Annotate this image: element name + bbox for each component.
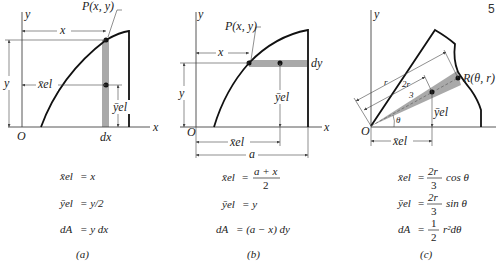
x-dim-label: x	[59, 23, 66, 37]
boundary-curve	[214, 30, 308, 127]
origin-label: O	[17, 129, 26, 143]
svg-text:sin θ: sin θ	[446, 197, 468, 209]
svg-text:dA: dA	[398, 223, 411, 235]
svg-text:y: y	[373, 7, 380, 21]
svg-text:R(θ, r): R(θ, r)	[462, 71, 495, 85]
svg-text:x: x	[323, 120, 330, 134]
panel-c: r 2r 3 θ ȳel x̄el R(θ, r) y O	[354, 7, 496, 148]
panel-b-equations: x̄el = a + x 2 ȳel = y dA = (a − x) dy (…	[216, 165, 290, 261]
svg-text:= y dx: = y dx	[80, 223, 108, 235]
svg-text:x̄el: x̄el	[397, 171, 411, 183]
svg-text:a + x: a + x	[254, 165, 277, 177]
yel-label: ȳel	[112, 100, 128, 114]
y-axis-label: y	[24, 7, 31, 21]
svg-text:θ: θ	[396, 115, 401, 125]
svg-text:= y: = y	[242, 198, 257, 210]
svg-text:3: 3	[431, 205, 437, 217]
caption-a: (a)	[76, 248, 89, 261]
svg-text:2: 2	[431, 231, 437, 243]
svg-text:=: =	[418, 223, 424, 235]
svg-text:O: O	[187, 125, 196, 139]
svg-text:x̄el: x̄el	[229, 135, 245, 149]
svg-text:x: x	[217, 45, 224, 59]
svg-text:=: =	[242, 171, 248, 183]
svg-text:2: 2	[263, 179, 269, 191]
centroid-diagram: 5 x y x̄el ȳel P(x, y) y x	[0, 0, 498, 265]
svg-text:= (a − x) dy: = (a − x) dy	[236, 223, 290, 236]
svg-text:x̄el: x̄el	[392, 134, 408, 148]
svg-text:P(x, y): P(x, y)	[224, 19, 257, 33]
svg-text:y: y	[197, 7, 204, 21]
svg-text:=: =	[418, 171, 424, 183]
svg-text:2r: 2r	[428, 191, 439, 203]
panel-b: x y ȳel x̄el a P(x, y) y x O dy	[178, 7, 330, 161]
svg-text:dy: dy	[311, 56, 323, 70]
svg-text:2r: 2r	[402, 79, 411, 89]
svg-text:cos θ: cos θ	[446, 171, 469, 183]
x-axis-label: x	[152, 120, 159, 134]
svg-text:r: r	[384, 77, 388, 87]
dx-label: dx	[100, 130, 112, 144]
svg-text:2r: 2r	[428, 165, 439, 177]
svg-text:= x: = x	[80, 170, 95, 182]
point-p-label: P(x, y)	[81, 0, 114, 13]
page-number: 5	[488, 2, 495, 16]
svg-text:x̄el: x̄el	[59, 170, 73, 182]
xel-label: x̄el	[37, 77, 53, 91]
panel-a-equations: x̄el = x ȳel = y/2 dA = y dx (a)	[59, 170, 108, 261]
svg-text:ȳel: ȳel	[221, 198, 235, 210]
svg-text:1: 1	[431, 217, 437, 229]
y-dim-label: y	[3, 76, 10, 90]
panel-c-equations: x̄el = 2r 3 cos θ ȳel = 2r 3 sin θ dA = …	[397, 165, 469, 261]
svg-text:x̄el: x̄el	[221, 171, 235, 183]
svg-text:y: y	[178, 86, 185, 100]
caption-c: (c)	[420, 248, 433, 261]
svg-text:ȳel: ȳel	[397, 197, 411, 209]
svg-text:ȳel: ȳel	[59, 197, 73, 209]
svg-text:dA: dA	[60, 223, 73, 235]
svg-text:a: a	[249, 147, 255, 161]
svg-text:ȳel: ȳel	[433, 105, 449, 119]
panel-a: x y x̄el ȳel P(x, y) y x O dx	[3, 0, 159, 144]
svg-text:dA: dA	[216, 223, 229, 235]
svg-text:3: 3	[431, 179, 437, 191]
svg-text:= y/2: = y/2	[80, 197, 104, 209]
svg-text:3: 3	[408, 90, 414, 100]
svg-text:O: O	[361, 124, 370, 138]
svg-text:ȳel: ȳel	[274, 90, 290, 104]
caption-b: (b)	[247, 248, 260, 261]
svg-text:=: =	[418, 197, 424, 209]
svg-text:r²dθ: r²dθ	[443, 223, 462, 235]
